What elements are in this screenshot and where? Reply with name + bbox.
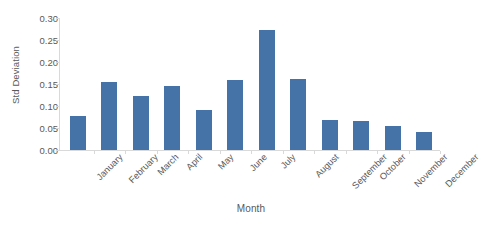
bar <box>259 30 275 150</box>
x-axis-tick-label: June <box>248 152 269 173</box>
bar <box>322 120 338 150</box>
y-axis-tick-label: 0.20 <box>26 57 58 68</box>
bar <box>133 96 149 150</box>
y-axis-tick-mark <box>56 150 59 151</box>
y-axis-tick-label: 0.30 <box>26 13 58 24</box>
x-axis-tick-label: March <box>155 152 180 177</box>
x-axis-tick-labels: JanuaryFebruaryMarchAprilMayJuneJulyAugu… <box>62 152 440 200</box>
y-axis-tick-mark <box>56 40 59 41</box>
x-axis-tick-label: November <box>412 152 449 189</box>
y-axis-title: Std Deviation <box>6 0 24 150</box>
y-axis-tick-label: 0.05 <box>26 123 58 134</box>
y-axis-tick-mark <box>56 106 59 107</box>
bar <box>164 86 180 150</box>
x-axis-line <box>59 150 440 151</box>
bar <box>101 82 117 150</box>
bar <box>416 132 432 150</box>
y-axis-tick-mark <box>56 18 59 19</box>
bar <box>227 80 243 150</box>
y-axis-tick-label: 0.25 <box>26 35 58 46</box>
x-axis-tick-label: January <box>94 152 124 182</box>
x-axis-tick-label: December <box>444 152 481 189</box>
y-axis-tick-mark <box>56 84 59 85</box>
x-axis-tick-label: August <box>314 152 341 179</box>
y-axis-tick-label: 0.10 <box>26 101 58 112</box>
plot-area <box>62 18 440 150</box>
x-axis-tick-label: April <box>185 152 205 172</box>
bar <box>353 121 369 150</box>
y-axis-tick-mark <box>56 62 59 63</box>
x-axis-title: Month <box>62 203 440 214</box>
y-axis-tick-labels: 0.000.050.100.150.200.250.30 <box>26 18 58 150</box>
bar <box>70 116 86 150</box>
x-axis-tick-label: July <box>279 152 298 171</box>
y-axis-line <box>59 18 60 150</box>
bar <box>385 126 401 150</box>
bar <box>290 79 306 150</box>
y-axis-tick-mark <box>56 128 59 129</box>
y-axis-tick-label: 0.00 <box>26 145 58 156</box>
bars-layer <box>62 18 440 150</box>
x-axis-tick-label: May <box>216 152 235 171</box>
bar <box>196 110 212 150</box>
y-axis-tick-label: 0.15 <box>26 79 58 90</box>
